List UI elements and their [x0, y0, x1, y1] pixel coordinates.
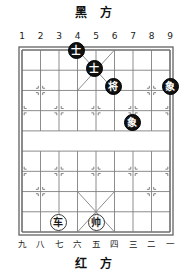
piece-red-marshal[interactable]: 帅 — [88, 214, 105, 231]
xiangqi-board-figure: 黑 方 123456789 士士将象象车帅 九八七六五四三二一 红 方 — [0, 0, 191, 278]
piece-black-general[interactable]: 将 — [105, 78, 122, 95]
piece-red-chariot[interactable]: 车 — [50, 214, 67, 231]
board-grid — [0, 0, 191, 278]
piece-black-advisor-2[interactable]: 士 — [86, 60, 103, 77]
piece-black-elephant-2[interactable]: 象 — [124, 114, 141, 131]
piece-black-elephant-1[interactable]: 象 — [162, 78, 179, 95]
red-side-label: 红 方 — [0, 257, 191, 271]
piece-black-advisor-1[interactable]: 士 — [68, 42, 85, 59]
